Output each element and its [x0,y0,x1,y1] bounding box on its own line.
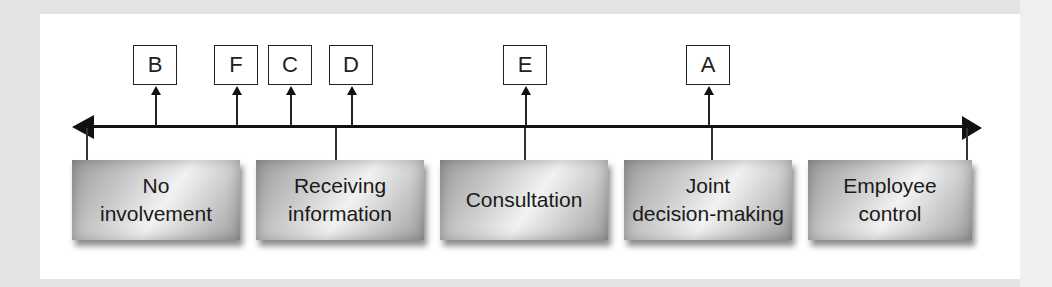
marker-pointer-b [155,94,157,126]
category-connector-employee-control [966,128,968,160]
marker-box-b: B [133,45,177,85]
arrow-up-icon [232,86,242,95]
category-employee-control: Employee control [808,160,972,240]
arrow-right-icon [962,116,982,140]
continuum-axis [84,125,972,128]
category-connector-joint-decision-making [711,128,713,160]
arrow-up-icon [286,86,296,95]
arrow-left-icon [72,115,94,139]
category-joint-decision-making: Joint decision-making [624,160,792,240]
marker-pointer-f [236,94,238,126]
marker-pointer-e [525,94,527,126]
right-margin-strip [1020,0,1052,287]
marker-box-e: E [503,45,547,85]
arrow-up-icon [151,86,161,95]
marker-box-f: F [214,45,258,85]
category-connector-receiving-information [335,128,337,160]
marker-pointer-d [351,94,353,126]
marker-pointer-a [708,94,710,126]
marker-box-c: C [268,45,312,85]
category-connector-no-involvement [86,128,88,160]
arrow-up-icon [347,86,357,95]
marker-box-a: A [686,45,730,85]
arrow-up-icon [521,86,531,95]
category-receiving-information: Receiving information [256,160,424,240]
marker-pointer-c [290,94,292,126]
category-no-involvement: No involvement [72,160,240,240]
marker-box-d: D [329,45,373,85]
category-consultation: Consultation [440,160,608,240]
arrow-up-icon [704,86,714,95]
category-connector-consultation [524,128,526,160]
